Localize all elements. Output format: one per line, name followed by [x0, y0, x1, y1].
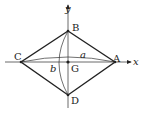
label-g: G [71, 63, 79, 74]
y-axis-label: y [64, 3, 71, 14]
point-d [67, 94, 70, 97]
arc-b-label: b [50, 63, 56, 74]
x-axis-label: x [133, 56, 139, 67]
point-b [67, 30, 70, 33]
rhombus-diagram: y x B A C D G a b [0, 0, 147, 115]
point-g [66, 60, 69, 63]
arc-b [59, 31, 68, 95]
label-b: B [72, 22, 79, 33]
label-c: C [14, 51, 22, 62]
arc-a-label: a [80, 49, 86, 60]
label-a: A [112, 53, 121, 64]
label-d: D [71, 95, 79, 106]
